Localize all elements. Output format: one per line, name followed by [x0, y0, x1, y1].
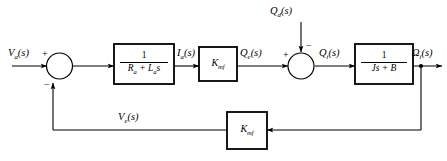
feedback-junction-dot	[419, 64, 423, 68]
block-label-torque-constant: Kmf	[199, 58, 237, 71]
block-label-mechanical-load: 1 Js + B	[359, 51, 409, 73]
block-diagram: Va(s) Ia(s) Qe(s) Qd(s) Qt(s) Ωi(s) Ve(s…	[0, 0, 447, 161]
sign-torque-summer-positive: +	[283, 50, 289, 60]
load-denominator: Js + B	[359, 63, 409, 74]
load-numerator: 1	[359, 51, 409, 62]
label-disturbance-torque: Qd(s)	[270, 6, 292, 19]
label-input-signal: Va(s)	[8, 48, 29, 61]
label-output-speed: Ωi(s)	[412, 48, 433, 61]
armature-numerator: 1	[118, 51, 170, 62]
sign-torque-summer-negative: −	[306, 41, 312, 51]
sign-input-summer-positive: +	[42, 49, 48, 59]
diagram-canvas	[0, 0, 447, 161]
label-net-torque: Qt(s)	[319, 48, 340, 61]
summing-junction-input	[47, 53, 73, 79]
label-back-emf: Ve(s)	[118, 112, 139, 125]
label-developed-torque: Qe(s)	[240, 48, 262, 61]
sign-input-summer-negative: −	[44, 80, 50, 90]
block-label-armature-circuit: 1 Ra + Las	[118, 51, 170, 75]
summing-junction-torque	[288, 53, 314, 79]
label-armature-current: Ia(s)	[177, 48, 195, 61]
block-label-back-emf-constant: Kmf	[227, 124, 267, 137]
armature-denominator: Ra + Las	[118, 63, 170, 75]
